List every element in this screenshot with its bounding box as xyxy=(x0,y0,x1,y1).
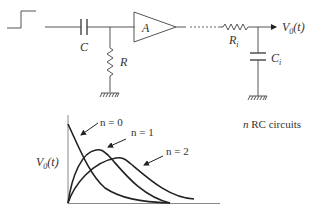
stage-resistor-label: Ri xyxy=(228,33,239,49)
capacitor-label: C xyxy=(80,40,89,54)
rc-circuit-diagram: C R A Ri V0(t) Ci n RC circuits xyxy=(0,0,321,215)
legend-arrow-icon xyxy=(144,156,163,165)
stage-capacitor-icon xyxy=(250,27,266,96)
legend-arrow-icon xyxy=(108,139,126,147)
resistor-label: R xyxy=(119,55,128,69)
legend-n2: n = 2 xyxy=(166,145,189,157)
amplifier-icon xyxy=(134,12,176,42)
capacitor-icon xyxy=(81,19,87,35)
curve-n0 xyxy=(68,124,170,203)
legend-n0: n = 0 xyxy=(100,116,123,128)
amplifier-label: A xyxy=(141,21,150,35)
output-label: V0(t) xyxy=(282,20,305,36)
legend-n1: n = 1 xyxy=(131,126,154,138)
plot-ylabel: V0(t) xyxy=(36,155,59,171)
ground-icon xyxy=(248,96,267,100)
ground-icon xyxy=(100,93,119,97)
stage-resistor-icon xyxy=(220,24,258,30)
resistor-icon xyxy=(107,27,113,92)
stage-capacitor-label: Ci xyxy=(271,51,281,67)
step-input-icon xyxy=(7,11,36,28)
legend-arrow-icon xyxy=(81,123,98,135)
stages-caption: n RC circuits xyxy=(243,118,301,130)
